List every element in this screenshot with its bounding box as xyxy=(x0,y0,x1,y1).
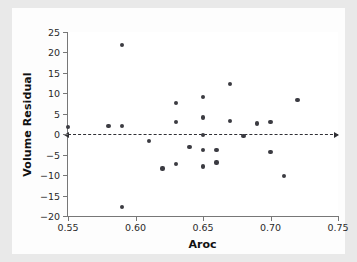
scatter-point xyxy=(120,205,124,209)
x-axis-title: Aroc xyxy=(67,238,338,251)
y-tick-label: 25 xyxy=(48,27,60,38)
scatter-point xyxy=(201,164,205,168)
scatter-point xyxy=(282,174,286,178)
scatter-point xyxy=(174,162,178,166)
y-tick-mark xyxy=(63,73,68,74)
scatter-point xyxy=(201,148,205,152)
y-tick-mark xyxy=(63,196,68,197)
y-axis-title: Volume Residual xyxy=(20,32,34,217)
chart-figure: Volume Residual −20−15−10−50510152025 0.… xyxy=(0,0,357,262)
scatter-point xyxy=(228,82,232,86)
scatter-point xyxy=(174,120,178,124)
x-tick-mark xyxy=(338,216,339,221)
scatter-point xyxy=(201,133,205,137)
y-tick-mark xyxy=(63,52,68,53)
scatter-point xyxy=(241,134,245,138)
y-tick-label: −15 xyxy=(40,190,60,201)
y-tick-label: −20 xyxy=(40,211,60,222)
y-tick-mark xyxy=(63,114,68,115)
y-axis-title-text: Volume Residual xyxy=(21,72,34,176)
x-tick-mark xyxy=(68,216,69,221)
x-tick-label: 0.65 xyxy=(192,222,213,233)
scatter-point xyxy=(268,120,272,124)
scatter-point xyxy=(147,139,151,143)
scatter-point xyxy=(201,115,205,119)
y-tick-label: 10 xyxy=(48,88,60,99)
scatter-point xyxy=(120,43,124,47)
x-tick-label: 0.60 xyxy=(125,222,146,233)
y-tick-mark xyxy=(63,32,68,33)
scatter-point xyxy=(201,95,205,99)
scatter-point xyxy=(228,119,232,123)
x-tick-label: 0.55 xyxy=(57,222,78,233)
scatter-point xyxy=(106,124,110,128)
y-tick-mark xyxy=(63,155,68,156)
scatter-point xyxy=(187,145,191,149)
x-tick-label: 0.70 xyxy=(260,222,281,233)
scatter-point xyxy=(268,150,272,154)
chart-canvas: Volume Residual −20−15−10−50510152025 0.… xyxy=(12,8,345,254)
y-tick-label: 15 xyxy=(48,67,60,78)
y-tick-mark xyxy=(63,93,68,94)
y-tick-label: −10 xyxy=(40,170,60,181)
y-tick-label: −5 xyxy=(46,149,60,160)
x-tick-mark xyxy=(136,216,137,221)
scatter-point xyxy=(174,101,178,105)
x-tick-mark xyxy=(271,216,272,221)
x-tick-label: 0.75 xyxy=(327,222,348,233)
y-tick-label: 5 xyxy=(54,108,60,119)
x-tick-mark xyxy=(203,216,204,221)
scatter-point xyxy=(295,98,299,102)
y-tick-mark xyxy=(63,134,68,135)
y-tick-label: 0 xyxy=(54,129,60,140)
y-tick-label: 20 xyxy=(48,47,60,58)
y-tick-mark xyxy=(63,175,68,176)
scatter-point xyxy=(255,121,259,125)
scatter-point xyxy=(214,160,218,164)
scatter-point xyxy=(214,148,218,152)
scatter-point xyxy=(66,125,70,129)
scatter-point xyxy=(120,124,124,128)
scatter-point xyxy=(160,166,164,170)
plot-area: −20−15−10−50510152025 0.550.600.650.700.… xyxy=(67,32,338,217)
